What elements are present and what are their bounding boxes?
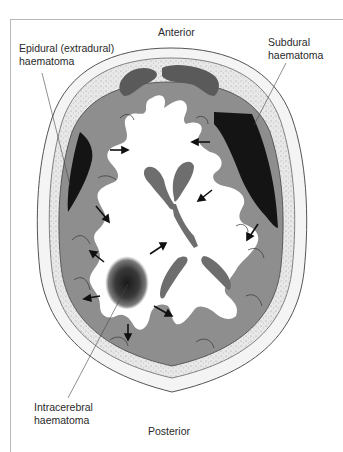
label-line: Subdural bbox=[268, 36, 323, 49]
label-anterior: Anterior bbox=[158, 26, 195, 39]
intracerebral-haematoma bbox=[105, 255, 149, 309]
label-subdural-haematoma: Subdural haematoma bbox=[268, 36, 323, 62]
label-line: Intracerebral bbox=[34, 401, 93, 414]
label-posterior: Posterior bbox=[148, 425, 190, 438]
label-line: Epidural (extradural) bbox=[19, 42, 114, 55]
label-intracerebral-haematoma: Intracerebral haematoma bbox=[34, 401, 93, 427]
label-line: haematoma bbox=[34, 414, 93, 427]
label-epidural-haematoma: Epidural (extradural) haematoma bbox=[19, 42, 114, 68]
label-line: haematoma bbox=[268, 49, 323, 62]
label-line: haematoma bbox=[19, 55, 114, 68]
